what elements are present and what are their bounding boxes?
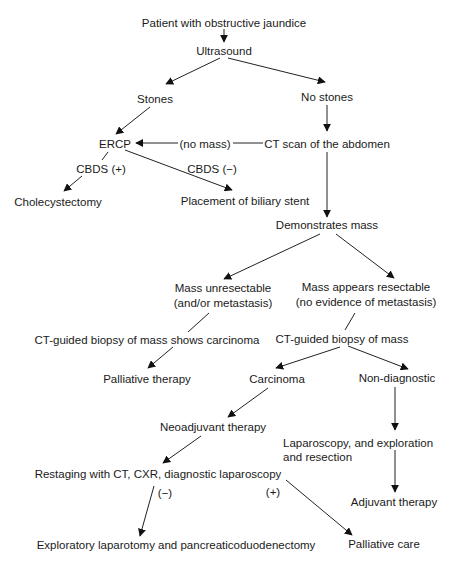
edge-biopsy-palliative [148, 347, 173, 368]
node-biliary-stent: Placement of biliary stent [181, 195, 310, 207]
edge-biopsy-nondiagnostic [348, 346, 408, 369]
node-non-diagnostic: Non-diagnostic [359, 372, 436, 384]
node-ct-scan: CT scan of the abdomen [264, 138, 390, 150]
edge-carcinoma-neoadjuvant [228, 388, 268, 417]
node-ultrasound: Ultrasound [196, 45, 252, 57]
node-palliative-care: Palliative care [348, 538, 420, 550]
node-mass-resectable: Mass appears resectable [302, 281, 430, 293]
edge-restaging-palliativecare [286, 480, 352, 535]
node-mass-unresectable-sub: (and/or metastasis) [174, 297, 273, 309]
nodes: Patient with obstructive jaundice Ultras… [14, 17, 437, 551]
edge-unresectable-biopsy [188, 313, 209, 332]
node-ercp: ERCP [99, 138, 131, 150]
edge-label-restage-pos: (+) [266, 486, 281, 498]
node-laparoscopy-sub: and resection [283, 451, 352, 463]
edge-ultrasound-stones [166, 58, 220, 84]
edge-label-cbds-neg: CBDS (−) [187, 163, 237, 175]
node-restaging: Restaging with CT, CXR, diagnostic lapar… [35, 468, 282, 480]
node-demonstrates-mass: Demonstrates mass [276, 219, 379, 231]
node-laparoscopy: Laparoscopy, and exploration [283, 437, 433, 449]
node-start: Patient with obstructive jaundice [142, 17, 306, 29]
edge-biopsy-carcinoma [276, 347, 340, 368]
edge-label-no-mass: (no mass) [179, 138, 230, 150]
flowchart-canvas: Patient with obstructive jaundice Ultras… [0, 0, 452, 567]
edge-cbdspos-chole [64, 176, 82, 191]
edge-ercp-cbdspos [102, 152, 108, 160]
node-carcinoma: Carcinoma [249, 373, 305, 385]
node-stones: Stones [137, 93, 173, 105]
node-no-stones: No stones [301, 91, 353, 103]
edge-label-cbds-pos: CBDS (+) [76, 163, 126, 175]
edge-demonstrates-resectable [336, 234, 394, 278]
edge-neoadjuvant-restaging [163, 436, 201, 463]
node-cholecystectomy: Cholecystectomy [14, 196, 102, 208]
node-neoadjuvant: Neoadjuvant therapy [160, 421, 266, 433]
edge-demonstrates-unresectable [224, 234, 320, 279]
node-exploratory: Exploratory laparotomy and pancreaticodu… [37, 539, 316, 551]
edge-stones-ercp [116, 107, 150, 134]
node-palliative-therapy: Palliative therapy [103, 373, 191, 385]
node-mass-unresectable: Mass unresectable [175, 282, 272, 294]
edge-ultrasound-nostones [228, 58, 325, 82]
edge-label-restage-neg: (−) [158, 487, 173, 499]
node-adjuvant: Adjuvant therapy [351, 496, 438, 508]
edge-restaging-exploratory [140, 486, 154, 536]
edge-resectable-biopsy [345, 313, 355, 330]
node-biopsy-mass: CT-guided biopsy of mass [276, 333, 409, 345]
node-biopsy-carcinoma: CT-guided biopsy of mass shows carcinoma [35, 334, 261, 346]
node-mass-resectable-sub: (no evidence of metastasis) [296, 296, 437, 308]
